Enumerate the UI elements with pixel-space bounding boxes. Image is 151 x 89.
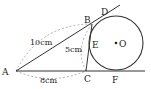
measure-ab: 10cm — [30, 38, 53, 47]
label-b: B — [84, 15, 91, 25]
label-o: O — [119, 39, 126, 49]
center-dot — [115, 42, 118, 45]
measure-bc: 5cm — [65, 45, 83, 54]
geometry-diagram: A B D E O C F 10cm 5cm 8cm — [0, 0, 151, 89]
label-c: C — [84, 74, 91, 84]
label-a: A — [1, 67, 9, 77]
label-d: D — [101, 7, 108, 17]
label-f: F — [112, 75, 118, 85]
label-e: E — [92, 40, 99, 50]
measure-ac: 8cm — [40, 76, 58, 85]
